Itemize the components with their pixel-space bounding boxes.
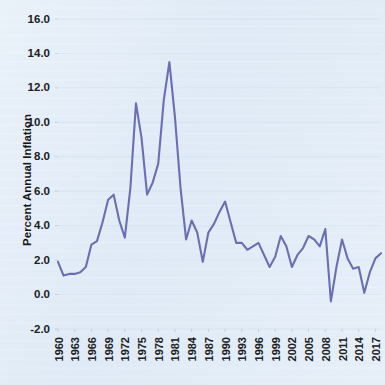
- x-tick-label: 1966: [86, 337, 98, 361]
- x-tick-label: 1999: [270, 337, 282, 361]
- x-tick-label: 2017: [370, 337, 382, 361]
- y-tick-label: 12.0: [28, 81, 50, 93]
- gridlines-group: [58, 19, 381, 329]
- x-tick-label: 1981: [169, 337, 181, 361]
- x-axis-tick-labels: 1960196319661969197219751978198119841987…: [53, 336, 382, 361]
- y-tick-label: 14.0: [28, 47, 50, 59]
- y-tick-label: 6.0: [34, 185, 50, 197]
- y-tick-label: 8.0: [34, 150, 50, 162]
- y-tick-label: 16.0: [28, 13, 50, 25]
- y-tick-label: -2.0: [30, 323, 50, 335]
- y-tick-label: 4.0: [34, 219, 50, 231]
- x-tick-label: 1963: [69, 337, 81, 361]
- x-tick-label: 2005: [303, 337, 315, 361]
- y-axis-title: Percent Annual Inflation: [21, 114, 33, 246]
- y-tick-label: 2.0: [34, 254, 50, 266]
- x-tick-label: 1969: [103, 337, 115, 361]
- x-tick-label: 1978: [153, 337, 165, 361]
- y-tick-label: 0.0: [34, 288, 50, 300]
- x-tick-label: 1987: [203, 337, 215, 361]
- x-tick-label: 1993: [236, 337, 248, 361]
- x-tick-label: 2011: [337, 337, 349, 361]
- tickmarks-group: [55, 19, 375, 332]
- x-tick-label: 1984: [186, 336, 198, 361]
- inflation-line-chart: -2.00.02.04.06.08.010.012.014.016.0 1960…: [0, 0, 385, 385]
- inflation-series-line: [58, 62, 381, 301]
- x-tick-label: 1975: [136, 337, 148, 361]
- x-tick-label: 1972: [119, 337, 131, 361]
- x-tick-label: 1960: [53, 337, 65, 361]
- chart-canvas: -2.00.02.04.06.08.010.012.014.016.0 1960…: [0, 0, 385, 385]
- x-tick-label: 2014: [353, 336, 365, 361]
- x-tick-label: 2002: [286, 337, 298, 361]
- x-tick-label: 1990: [220, 337, 232, 361]
- x-tick-label: 1996: [253, 337, 265, 361]
- x-tick-label: 2008: [320, 337, 332, 361]
